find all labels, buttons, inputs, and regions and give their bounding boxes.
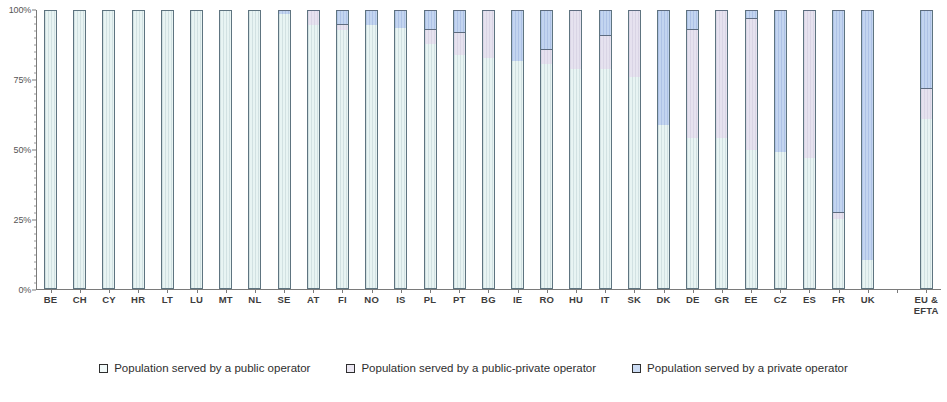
bar-segment-public bbox=[862, 260, 873, 288]
x-axis-tick-mark bbox=[401, 289, 402, 293]
stacked-bar[interactable] bbox=[803, 10, 816, 289]
stacked-bar[interactable] bbox=[190, 10, 203, 289]
x-axis-label: SE bbox=[270, 294, 299, 324]
stacked-bar[interactable] bbox=[628, 10, 641, 289]
stacked-bar[interactable] bbox=[774, 10, 787, 289]
bar-segment-public bbox=[279, 14, 290, 288]
x-axis-tick-mark bbox=[547, 289, 548, 293]
bar-slot bbox=[795, 10, 824, 289]
x-axis-tick-mark bbox=[51, 289, 52, 293]
stacked-bar[interactable] bbox=[569, 10, 582, 289]
stacked-bar[interactable] bbox=[832, 10, 845, 289]
stacked-bar[interactable] bbox=[278, 10, 291, 289]
stacked-bar[interactable] bbox=[394, 10, 407, 289]
x-axis-label: NL bbox=[240, 294, 269, 324]
stacked-bar[interactable] bbox=[511, 10, 524, 289]
bar-slot bbox=[415, 10, 444, 289]
x-axis-label: LU bbox=[182, 294, 211, 324]
bar-slot bbox=[678, 10, 707, 289]
stacked-bar[interactable] bbox=[336, 10, 349, 289]
bar-slot bbox=[357, 10, 386, 289]
x-axis-label: PL bbox=[415, 294, 444, 324]
bar-segment-public bbox=[483, 58, 494, 288]
stacked-bar[interactable] bbox=[453, 10, 466, 289]
x-axis-label: MT bbox=[211, 294, 240, 324]
bar-slot bbox=[824, 10, 853, 289]
x-axis-tick-mark bbox=[780, 289, 781, 293]
bar-segment-private bbox=[658, 10, 669, 125]
x-axis-label-spacer bbox=[882, 294, 911, 324]
stacked-bar[interactable] bbox=[73, 10, 86, 289]
legend-swatch-icon bbox=[99, 364, 108, 373]
x-axis-tick-mark bbox=[255, 289, 256, 293]
x-axis-label: EE bbox=[737, 294, 766, 324]
x-axis-label: LT bbox=[153, 294, 182, 324]
stacked-bar[interactable] bbox=[307, 10, 320, 289]
x-axis-tick-mark bbox=[809, 289, 810, 293]
x-axis-tick-mark bbox=[167, 289, 168, 293]
x-axis-tick-mark bbox=[605, 289, 606, 293]
bar-segment-public bbox=[133, 11, 144, 288]
bar-slot bbox=[474, 10, 503, 289]
bar-segment-private bbox=[833, 10, 844, 213]
stacked-bar[interactable] bbox=[44, 10, 57, 289]
bar-slot-spacer bbox=[882, 10, 911, 289]
stacked-bar[interactable] bbox=[540, 10, 553, 289]
bar-slot bbox=[445, 10, 474, 289]
stacked-bar[interactable] bbox=[248, 10, 261, 289]
x-axis-tick-mark bbox=[722, 289, 723, 293]
stacked-bar[interactable] bbox=[920, 10, 933, 289]
stacked-bar[interactable] bbox=[365, 10, 378, 289]
bar-segment-public bbox=[191, 11, 202, 288]
bar-segment-pubpriv bbox=[804, 10, 815, 158]
bar-segment-public bbox=[833, 219, 844, 288]
legend-item-private[interactable]: Population served by a private operator bbox=[632, 362, 848, 374]
stacked-bar[interactable] bbox=[132, 10, 145, 289]
bar-segment-public bbox=[337, 30, 348, 288]
x-axis-tick-mark bbox=[459, 289, 460, 293]
stacked-bar[interactable] bbox=[219, 10, 232, 289]
bar-slot bbox=[561, 10, 590, 289]
bar-segment-pubpriv bbox=[921, 88, 932, 119]
x-axis-label: IE bbox=[503, 294, 532, 324]
stacked-bar[interactable] bbox=[102, 10, 115, 289]
bar-segment-public bbox=[570, 69, 581, 288]
bar-segment-public bbox=[804, 158, 815, 288]
legend-label: Population served by a public-private op… bbox=[361, 362, 596, 374]
x-axis-label: FR bbox=[824, 294, 853, 324]
x-axis-tick-mark bbox=[897, 289, 898, 293]
stacked-bar[interactable] bbox=[715, 10, 728, 289]
bar-segment-public bbox=[629, 77, 640, 288]
legend-item-public[interactable]: Population served by a public operator bbox=[99, 362, 310, 374]
bar-segment-pubpriv bbox=[308, 10, 319, 25]
bar-segment-public bbox=[220, 11, 231, 288]
stacked-bar[interactable] bbox=[686, 10, 699, 289]
stacked-bar[interactable] bbox=[482, 10, 495, 289]
stacked-bar[interactable] bbox=[861, 10, 874, 289]
x-axis-tick-mark bbox=[197, 289, 198, 293]
legend-item-pubpriv[interactable]: Population served by a public-private op… bbox=[346, 362, 596, 374]
bar-segment-pubpriv bbox=[687, 29, 698, 138]
stacked-bar[interactable] bbox=[599, 10, 612, 289]
x-axis-tick-mark bbox=[80, 289, 81, 293]
x-axis-tick-mark bbox=[751, 289, 752, 293]
x-axis-label: FI bbox=[328, 294, 357, 324]
stacked-bar[interactable] bbox=[161, 10, 174, 289]
x-axis-label: CH bbox=[65, 294, 94, 324]
stacked-bar[interactable] bbox=[424, 10, 437, 289]
stacked-bar[interactable] bbox=[657, 10, 670, 289]
x-axis-tick-mark bbox=[430, 289, 431, 293]
x-axis-tick-mark bbox=[634, 289, 635, 293]
bar-segment-public bbox=[687, 138, 698, 288]
x-axis-label: IT bbox=[591, 294, 620, 324]
x-axis-tick-mark bbox=[372, 289, 373, 293]
bar-segment-public bbox=[454, 55, 465, 288]
bar-segment-public bbox=[658, 125, 669, 288]
x-axis-label: SK bbox=[620, 294, 649, 324]
bar-segment-public bbox=[366, 25, 377, 288]
bar-slot bbox=[270, 10, 299, 289]
bar-segment-private bbox=[921, 10, 932, 89]
x-axis-label: CY bbox=[94, 294, 123, 324]
stacked-bar[interactable] bbox=[745, 10, 758, 289]
bar-segment-public bbox=[716, 138, 727, 288]
